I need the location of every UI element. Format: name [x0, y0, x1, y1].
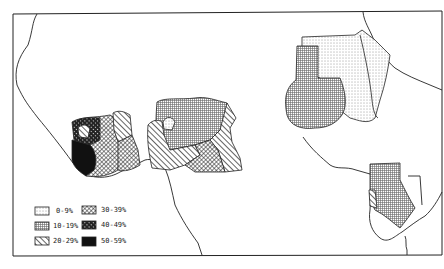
- legend-swatch-10-19: [35, 222, 49, 230]
- legend-swatch-50-59: [82, 237, 96, 246]
- legend-swatch-30-39: [82, 206, 96, 214]
- legend-label-20-29: 20-29%: [53, 237, 78, 245]
- legend-swatch-20-29: [35, 237, 49, 245]
- region-east-africa-north: [286, 30, 390, 128]
- legend-label-50-59: 50-59%: [101, 237, 126, 245]
- legend-label-30-39: 30-39%: [101, 206, 126, 214]
- region-east-africa-south: [369, 163, 415, 228]
- legend-label-0-9: 0-9%: [56, 207, 73, 215]
- legend-label-40-49: 40-49%: [101, 221, 126, 229]
- legend-swatch-0-9: [35, 207, 49, 215]
- region-west-africa-left: [72, 111, 140, 176]
- legend-swatch-40-49: [82, 221, 96, 229]
- legend-label-10-19: 10-19%: [53, 222, 78, 230]
- region-west-africa-right: [148, 97, 242, 172]
